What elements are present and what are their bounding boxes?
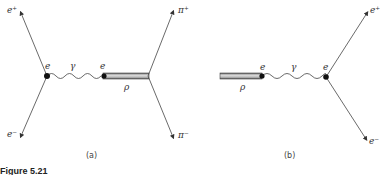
label-e-minus-b: e⁻ (369, 137, 379, 146)
label-e-plus-b: e⁺ (370, 6, 380, 15)
photon-line-a (47, 74, 101, 79)
panel-b (220, 13, 367, 139)
vertex-left-b (259, 73, 264, 78)
pi-plus-line (148, 12, 173, 76)
label-photon-a: γ (70, 62, 75, 71)
label-pi-minus: π⁻ (178, 131, 189, 140)
label-photon-b: γ (291, 63, 296, 72)
e-plus-line-a (21, 13, 47, 76)
label-pi-plus: π⁺ (178, 6, 189, 15)
pi-minus-line (148, 76, 173, 137)
vertex-right-b (323, 74, 329, 80)
photon-line-b (262, 74, 326, 79)
label-vertex-left-a: e (45, 62, 50, 71)
e-minus-line-a (21, 76, 47, 136)
vertex-left-a (44, 73, 50, 79)
panel-b-label: (b) (284, 151, 295, 160)
label-rho-b: ρ (240, 83, 245, 92)
figure-caption: Figure 5.21 (0, 166, 48, 175)
e-plus-line-b (326, 13, 367, 77)
vertex-right-a (101, 73, 106, 78)
feynman-diagrams (0, 0, 384, 175)
label-vertex-right-a: e (100, 62, 105, 71)
rho-propagator-a (103, 73, 149, 79)
e-minus-line-b (326, 77, 366, 139)
label-vertex-left-b: e (260, 63, 265, 72)
label-e-minus-a: e⁻ (7, 130, 17, 139)
panel-a (21, 12, 173, 137)
rho-propagator-b (220, 73, 262, 79)
label-rho-a: ρ (124, 83, 129, 92)
label-e-plus-a: e⁺ (7, 6, 17, 15)
label-vertex-right-b: e (323, 63, 328, 72)
panel-a-label: (a) (86, 151, 97, 160)
